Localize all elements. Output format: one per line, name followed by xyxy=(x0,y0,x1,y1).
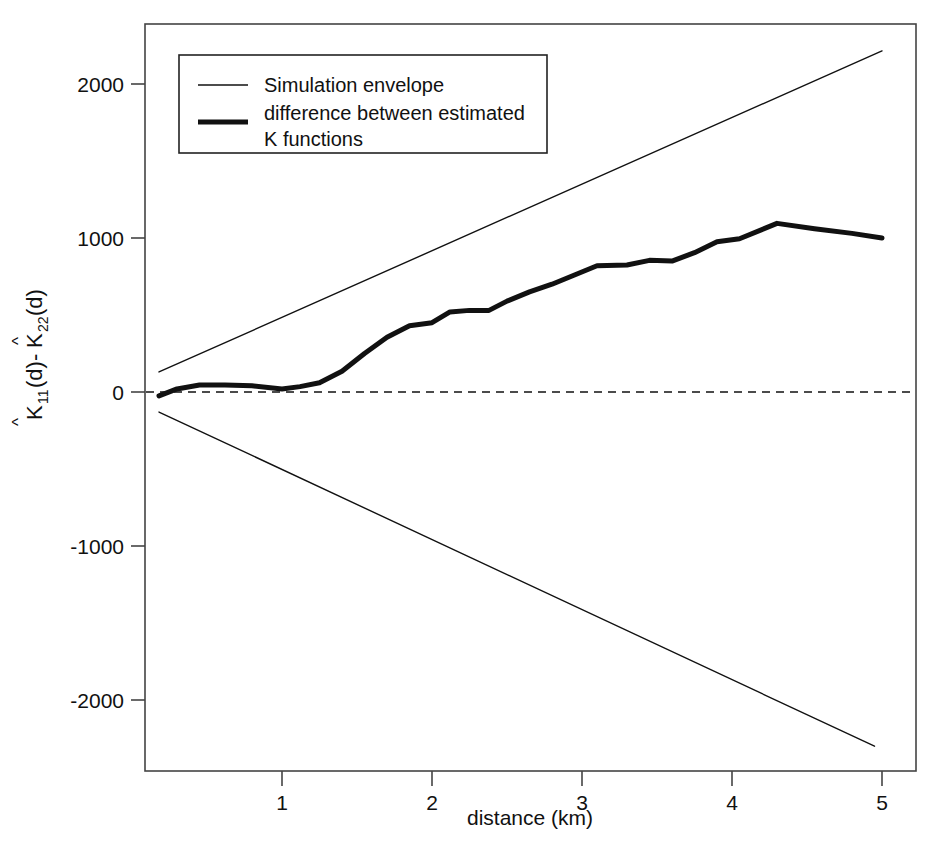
y-axis-title-sub1: 11 xyxy=(35,389,51,404)
y-axis-title-tail: (d) xyxy=(22,289,47,316)
y-tick-label-2000: 2000 xyxy=(77,73,124,96)
legend-label-simulation-envelope: Simulation envelope xyxy=(264,74,444,96)
series-line-2 xyxy=(159,223,882,395)
y-tick-label-1000: 1000 xyxy=(77,227,124,250)
y-axis-tick-labels: -2000-1000010002000 xyxy=(70,73,124,712)
x-tick-label-5: 5 xyxy=(876,791,888,814)
y-tick-label--2000: -2000 xyxy=(70,689,124,712)
x-tick-label-4: 4 xyxy=(726,791,738,814)
series-line-1 xyxy=(159,412,875,746)
x-axis-ticks xyxy=(282,771,882,786)
k-function-difference-chart: -2000-1000010002000 12345 distance (km) … xyxy=(0,0,939,849)
legend: Simulation envelope difference between e… xyxy=(179,55,547,153)
legend-label-difference-k-functions-line2: K functions xyxy=(264,128,363,150)
data-series-group xyxy=(159,51,882,746)
chart-page: -2000-1000010002000 12345 distance (km) … xyxy=(0,0,939,849)
y-tick-label--1000: -1000 xyxy=(70,535,124,558)
y-axis-title-mid: (d)- xyxy=(22,354,47,388)
y-tick-label-0: 0 xyxy=(112,381,124,404)
x-axis-title: distance (km) xyxy=(467,806,593,829)
x-tick-label-1: 1 xyxy=(276,791,288,814)
legend-label-difference-k-functions-line1: difference between estimated xyxy=(264,102,525,124)
x-tick-label-2: 2 xyxy=(426,791,438,814)
y-axis-ticks xyxy=(131,84,145,700)
y-axis-title: ^ K 11 (d)- ^ K 22 (d) xyxy=(9,289,51,426)
y-axis-title-sub2: 22 xyxy=(35,316,51,332)
y-axis-title-k1: K xyxy=(22,405,47,420)
y-axis-title-k2: K xyxy=(22,333,47,348)
